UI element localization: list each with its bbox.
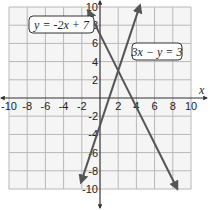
x-tick-label: -8 [22,100,32,112]
y-tick-label: 4 [92,56,98,68]
label-line2: 3x − y = 3 [131,43,183,60]
line1-equation: y = -2x + 7 [33,18,90,32]
y-tick-label: -2 [88,110,98,122]
y-tick-label: -8 [88,165,98,177]
y-tick-label: 6 [92,37,98,49]
coordinate-plane: -10-8-6-4-2246810108642-2-4-6-8-10 x y =… [0,0,210,210]
x-tick-label: 8 [170,100,176,112]
x-tick-label: -2 [77,100,87,112]
x-axis-label: x [198,83,205,97]
x-tick-label: -10 [1,100,17,112]
y-tick-label: 2 [92,74,98,86]
y-tick-label: -10 [82,183,98,195]
x-tick-label: -6 [41,100,51,112]
x-tick-label: 2 [115,100,121,112]
x-tick-label: 10 [185,100,197,112]
x-tick-label: -4 [59,100,69,112]
x-tick-label: 6 [152,100,158,112]
line2-equation: 3x − y = 3 [131,45,183,59]
label-line1: y = -2x + 7 [29,16,94,33]
